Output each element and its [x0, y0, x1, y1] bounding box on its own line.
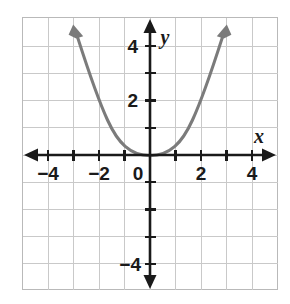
y-axis-label: y — [159, 26, 170, 49]
x-tick-label-4: 4 — [247, 163, 258, 184]
graph-figure: −4 −2 0 2 4 4 2 −4 x y — [0, 0, 290, 304]
x-tick-label-minus2: −2 — [88, 163, 110, 184]
y-tick-label-2: 2 — [127, 90, 138, 111]
x-tick-label-2: 2 — [196, 163, 207, 184]
coordinate-plane-svg: −4 −2 0 2 4 4 2 −4 x y — [0, 0, 290, 304]
origin-label: 0 — [133, 163, 144, 184]
y-tick-label-4: 4 — [127, 36, 138, 57]
y-tick-label-minus4: −4 — [119, 254, 141, 275]
x-tick-label-minus4: −4 — [37, 163, 59, 184]
x-axis-label: x — [253, 125, 264, 147]
